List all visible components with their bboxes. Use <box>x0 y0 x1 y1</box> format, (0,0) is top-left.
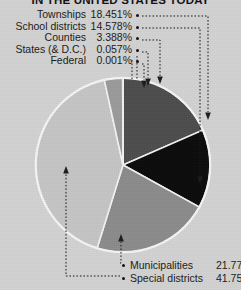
label-value: 41.753% <box>216 272 241 285</box>
label-bullet-icon <box>136 37 139 40</box>
label-row-special-districts: Special districts 41.753% <box>122 272 241 285</box>
label-name: Townships <box>37 9 86 21</box>
label-value: 0.001% <box>86 55 132 67</box>
label-value: 21.772% <box>216 259 241 272</box>
label-row-townships: Townships 18.451% <box>0 9 139 21</box>
label-name: Municipalities <box>130 259 216 272</box>
label-name: Special districts <box>130 272 216 285</box>
label-bullet-icon <box>136 49 139 52</box>
left-label-group: Townships 18.451% School districts 14.57… <box>0 9 139 67</box>
label-bullet-icon <box>136 14 139 17</box>
label-bullet-icon <box>136 26 139 29</box>
label-value: 18.451% <box>86 9 132 21</box>
label-row-municipalities: Municipalities 21.772% <box>122 259 241 272</box>
label-row-federal: Federal 0.001% <box>0 55 139 67</box>
label-bullet-icon <box>136 60 139 63</box>
bottom-label-group: Municipalities 21.772% Special districts… <box>122 259 241 285</box>
label-bullet-icon <box>122 277 125 280</box>
label-name: Federal <box>50 55 86 67</box>
label-bullet-icon <box>122 264 125 267</box>
pie-chart-figure: IN THE UNITED STATES TODAY <box>0 0 241 290</box>
